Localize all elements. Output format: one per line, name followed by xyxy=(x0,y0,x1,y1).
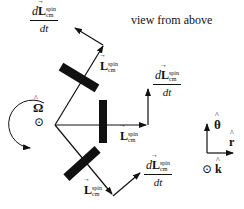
lower-paddle xyxy=(63,146,100,181)
L-symbol: L xyxy=(152,158,160,172)
sub: cm xyxy=(160,166,170,172)
sub: cm xyxy=(128,137,138,143)
middle-dLdt-label: dLspincm dt xyxy=(153,68,181,98)
view-title: view from above xyxy=(131,14,212,26)
L-symbol: L xyxy=(100,59,108,73)
omega-label: Ω xyxy=(33,101,43,114)
omega-direction-icon: ⊙ xyxy=(34,116,44,128)
k-hat-label: ⊙ k xyxy=(202,163,222,175)
sub: cm xyxy=(169,76,179,82)
dt-symbol: dt xyxy=(153,85,181,98)
sub: cm xyxy=(108,67,118,73)
dt-symbol: dt xyxy=(30,21,58,34)
upper-dLdt-vector xyxy=(75,28,103,45)
out-of-page-icon: ⊙ xyxy=(202,162,212,176)
lower-dLdt-label: dLspincm dt xyxy=(144,158,172,188)
r-hat-label: r xyxy=(229,136,234,148)
theta-hat-label: θ xyxy=(214,118,221,131)
middle-paddle xyxy=(99,100,107,143)
upper-dLdt-label: dLspincm dt xyxy=(30,4,58,34)
L-symbol: L xyxy=(120,129,128,143)
diagram-canvas: view from above Ω ⊙ dLspincm dt Lspincm … xyxy=(0,0,244,209)
lower-L-label: Lspincm xyxy=(84,184,102,197)
middle-L-label: Lspincm xyxy=(120,130,138,143)
dt-symbol: dt xyxy=(144,175,172,188)
theta-symbol: θ xyxy=(214,118,221,131)
upper-L-label: Lspincm xyxy=(100,60,118,73)
omega-symbol: Ω xyxy=(33,101,43,114)
sub: cm xyxy=(92,191,102,197)
lower-dLdt-vector xyxy=(113,173,140,196)
r-symbol: r xyxy=(229,136,234,148)
upper-paddle xyxy=(59,63,100,92)
L-symbol: L xyxy=(161,68,169,82)
L-symbol: L xyxy=(84,183,92,197)
sub: cm xyxy=(46,12,56,18)
k-symbol: k xyxy=(215,163,222,175)
L-symbol: L xyxy=(38,4,46,18)
